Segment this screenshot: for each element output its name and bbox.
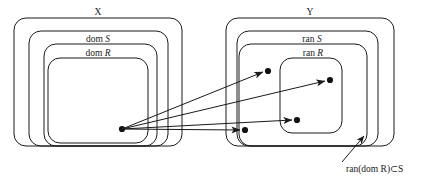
target-node-4 (242, 127, 248, 133)
set-label-x: X (95, 7, 102, 17)
annotation-leader-line (342, 136, 364, 162)
set-label-ran-r: ran R (303, 48, 324, 58)
target-node-1 (265, 68, 271, 74)
set-label-dom-s: dom S (86, 34, 110, 44)
target-node-3 (294, 117, 300, 123)
set-label-y: Y (307, 7, 314, 17)
set-label-ran-s: ran S (302, 34, 322, 44)
target-node-2 (327, 77, 333, 83)
annotation-group: ran(dom R)⊂S (342, 136, 403, 175)
annotation-label: ran(dom R)⊂S (346, 164, 403, 175)
set-box-dom-inner (48, 58, 148, 143)
set-relation-diagram: X dom S dom R Y ran S ran R (0, 0, 427, 180)
set-box-ran-inner (280, 58, 342, 133)
left-set-group: X dom S dom R (14, 7, 182, 146)
set-box-dom-r (44, 44, 157, 146)
set-box-ran-r (239, 44, 367, 146)
arrow-to-target-4 (122, 129, 240, 130)
diagram-canvas: X dom S dom R Y ran S ran R (0, 0, 427, 180)
target-nodes (242, 68, 333, 133)
set-label-dom-r: dom R (85, 48, 110, 58)
